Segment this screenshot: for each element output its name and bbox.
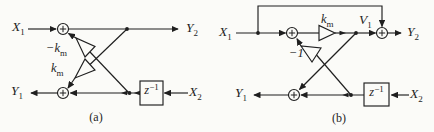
- b-node-label: V1: [359, 13, 372, 28]
- a-bottom-arrowhead-left: [121, 91, 127, 96]
- b-input-bottom-label: X2: [410, 87, 423, 102]
- b-bottom-node-dot: [349, 93, 353, 97]
- b-mid-arrowhead-top: [340, 31, 347, 36]
- b-gain-inverter-label: −1: [289, 46, 304, 60]
- b-output-bottom-label: Y1: [235, 86, 247, 101]
- a-km-to-adder-wire: [68, 78, 75, 88]
- a-negkm-to-adder-wire: [69, 34, 77, 39]
- b-bottom-arrowhead: [342, 93, 348, 98]
- a-gain-lower-label: km: [51, 61, 64, 76]
- b-neg1-to-adder-wire: [297, 39, 301, 46]
- b-output-top-label: Y2: [407, 25, 419, 40]
- b-gain-triangle-neg1: [301, 46, 321, 62]
- a-bottom-node-dot: [128, 91, 132, 95]
- b-diagonal-up: [317, 55, 352, 95]
- b-input-top-label: X1: [219, 25, 232, 40]
- lattice-filter-figure: X1 Y2 −km km Y1 z−1 X2 (a) X1 km V1 Y2 −…: [0, 0, 434, 132]
- b-caption: (b): [327, 111, 351, 126]
- b-diagonal-down: [300, 33, 357, 90]
- a-output-bottom-label: Y1: [11, 84, 23, 99]
- b-delay-label: z−1: [364, 85, 389, 100]
- a-input-top-label: X1: [12, 20, 25, 35]
- a-output-top-label: Y2: [186, 21, 198, 36]
- a-gain-upper-label: −km: [46, 41, 67, 56]
- a-caption: (a): [84, 110, 108, 125]
- b-gain-label: km: [321, 12, 334, 27]
- a-delay-label: z−1: [140, 83, 163, 98]
- a-diagonal-up: [90, 52, 129, 93]
- a-input-bottom-label: X2: [189, 85, 202, 100]
- b-input-node-dot: [256, 31, 260, 35]
